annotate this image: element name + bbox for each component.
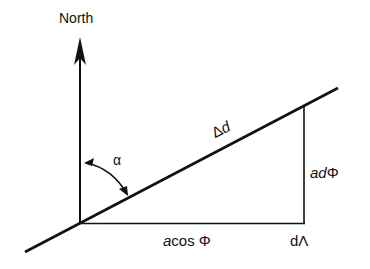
arc-arrowhead-end-icon [119, 186, 128, 196]
alpha-label: α [113, 153, 121, 167]
d-lambda-label: dΛ [290, 233, 308, 248]
cos-phi-text: cos Φ [171, 232, 210, 249]
north-label: North [59, 11, 93, 25]
diagram-svg [0, 0, 370, 269]
distance-line [25, 88, 338, 252]
d-symbol: d [318, 164, 326, 181]
a-d-phi-label: adΦ [310, 165, 339, 180]
a-cos-phi-label: acos Φ [163, 233, 211, 248]
phi-symbol: Φ [327, 164, 339, 181]
geodesic-triangle-diagram: North α Δd adΦ acos Φ dΛ [0, 0, 370, 269]
